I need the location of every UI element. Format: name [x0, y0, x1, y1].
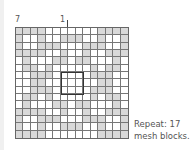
open-mesh: [121, 65, 128, 72]
open-mesh: [38, 57, 45, 64]
filled-block: [76, 57, 83, 64]
open-mesh: [16, 79, 23, 86]
open-mesh: [68, 94, 75, 101]
open-mesh: [91, 101, 98, 108]
filled-block: [91, 65, 98, 72]
open-mesh: [31, 57, 38, 64]
open-mesh: [91, 57, 98, 64]
open-mesh: [23, 79, 30, 86]
open-mesh: [53, 123, 60, 130]
open-mesh: [83, 35, 90, 42]
open-mesh: [53, 65, 60, 72]
open-mesh: [106, 57, 113, 64]
filled-block: [83, 101, 90, 108]
open-mesh: [91, 28, 98, 35]
filled-block: [113, 65, 120, 72]
open-mesh: [121, 94, 128, 101]
filled-block: [31, 50, 38, 57]
open-mesh: [113, 43, 120, 50]
filled-block: [53, 101, 60, 108]
repeat-note: Repeat: 17 mesh blocks.: [134, 118, 190, 142]
open-mesh: [83, 123, 90, 130]
filled-block: [61, 50, 68, 57]
open-mesh: [31, 43, 38, 50]
filled-block: [106, 72, 113, 79]
open-mesh: [76, 87, 83, 94]
filled-block: [46, 94, 53, 101]
open-mesh: [61, 87, 68, 94]
open-mesh: [23, 35, 30, 42]
filled-block: [53, 116, 60, 123]
open-mesh: [83, 87, 90, 94]
filled-block: [91, 43, 98, 50]
open-mesh: [68, 43, 75, 50]
open-mesh: [113, 116, 120, 123]
filled-block: [106, 131, 113, 138]
open-mesh: [121, 57, 128, 64]
open-mesh: [53, 72, 60, 79]
filled-block: [53, 57, 60, 64]
filled-block: [38, 109, 45, 116]
filled-block: [61, 57, 68, 64]
filled-block: [121, 116, 128, 123]
open-mesh: [91, 79, 98, 86]
filled-block: [106, 28, 113, 35]
open-mesh: [106, 43, 113, 50]
filled-block: [38, 35, 45, 42]
filled-block: [91, 116, 98, 123]
filled-block: [23, 94, 30, 101]
open-mesh: [53, 28, 60, 35]
filled-block: [31, 94, 38, 101]
open-mesh: [53, 109, 60, 116]
open-mesh: [53, 79, 60, 86]
open-mesh: [83, 72, 90, 79]
filled-block: [38, 72, 45, 79]
open-mesh: [16, 57, 23, 64]
filled-block: [23, 109, 30, 116]
filled-block: [46, 72, 53, 79]
open-mesh: [68, 50, 75, 57]
open-mesh: [68, 116, 75, 123]
open-mesh: [76, 50, 83, 57]
filled-block: [38, 50, 45, 57]
filled-block: [23, 28, 30, 35]
open-mesh: [53, 35, 60, 42]
open-mesh: [76, 79, 83, 86]
filled-block: [106, 65, 113, 72]
open-mesh: [83, 131, 90, 138]
filled-block: [31, 131, 38, 138]
filled-block: [31, 28, 38, 35]
filled-block: [91, 87, 98, 94]
open-mesh: [68, 72, 75, 79]
open-mesh: [68, 87, 75, 94]
open-mesh: [98, 57, 105, 64]
open-mesh: [16, 101, 23, 108]
open-mesh: [83, 94, 90, 101]
open-mesh: [68, 101, 75, 108]
filled-block: [76, 101, 83, 108]
open-mesh: [91, 109, 98, 116]
filled-block: [31, 109, 38, 116]
filled-block: [121, 131, 128, 138]
open-mesh: [113, 79, 120, 86]
open-mesh: [98, 109, 105, 116]
filled-block: [98, 131, 105, 138]
open-mesh: [61, 94, 68, 101]
open-mesh: [98, 65, 105, 72]
filled-block: [113, 50, 120, 57]
open-mesh: [46, 131, 53, 138]
filled-block: [121, 123, 128, 130]
open-mesh: [76, 131, 83, 138]
filled-block: [46, 87, 53, 94]
open-mesh: [61, 72, 68, 79]
open-mesh: [23, 123, 30, 130]
open-mesh: [53, 131, 60, 138]
open-mesh: [23, 116, 30, 123]
open-mesh: [98, 101, 105, 108]
filled-block: [53, 43, 60, 50]
filled-block: [38, 79, 45, 86]
filled-block: [121, 28, 128, 35]
open-mesh: [91, 131, 98, 138]
open-mesh: [16, 72, 23, 79]
filled-block: [121, 43, 128, 50]
